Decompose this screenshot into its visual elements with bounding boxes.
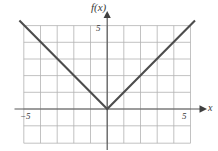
x-axis-label: x xyxy=(208,103,212,113)
x-tick-label-negative-5: −5 xyxy=(20,112,31,121)
x-axis-arrowhead xyxy=(200,105,208,113)
y-tick-label-5: 5 xyxy=(96,24,101,33)
graph-screenshot: f(x) x 5 −5 5 xyxy=(0,0,218,151)
x-tick-label-5: 5 xyxy=(182,112,187,121)
function-axis-label: f(x) xyxy=(91,2,106,13)
y-axis xyxy=(104,11,111,150)
coordinate-plane-graphic xyxy=(0,0,218,151)
